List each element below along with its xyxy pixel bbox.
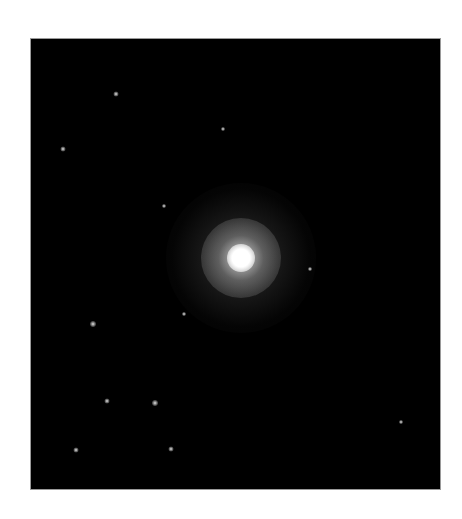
field-star [90,321,96,327]
field-star [162,204,166,208]
field-star [221,127,225,131]
field-star [182,312,186,316]
field-star [114,92,119,97]
field-star [74,448,79,453]
field-star [399,420,403,424]
field-star [169,447,174,452]
field-star [308,267,312,271]
field-star [105,399,110,404]
field-star [61,147,66,152]
field-star [152,400,158,406]
central-star-outer-halo [166,183,316,333]
central-star-inner-halo [201,218,281,298]
central-star-core [227,244,255,272]
star-field-image [30,38,441,490]
